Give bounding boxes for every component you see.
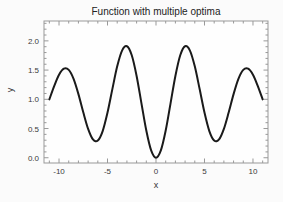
y-tick-label: 0.5: [28, 125, 40, 134]
y-tick-label: 2.0: [28, 37, 40, 46]
plot-area: -10-505100.00.51.01.52.0: [0, 0, 283, 202]
x-tick-label: -10: [53, 167, 65, 176]
y-tick-label: 1.5: [28, 66, 40, 75]
x-tick-label: 5: [202, 167, 207, 176]
x-tick-label: -5: [104, 167, 112, 176]
y-tick-label: 0.0: [28, 154, 40, 163]
y-tick-label: 1.0: [28, 95, 40, 104]
x-tick-label: 10: [249, 167, 258, 176]
x-tick-label: 0: [154, 167, 159, 176]
chart-figure: Function with multiple optima y x -10-50…: [0, 0, 283, 202]
